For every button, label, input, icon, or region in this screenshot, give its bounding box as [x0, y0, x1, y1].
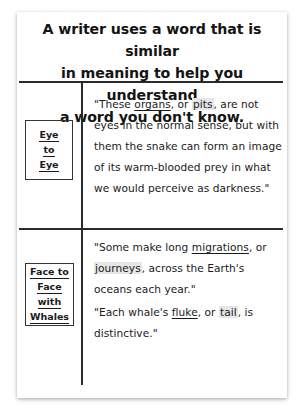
source-title-line: Face to	[30, 266, 69, 279]
row-divider	[19, 228, 283, 230]
unknown-word: migrations	[192, 241, 249, 253]
source-title-line: Eye	[39, 159, 58, 172]
source-title-box-eye-to-eye: Eye to Eye	[25, 120, 73, 180]
unknown-word: organs	[134, 98, 170, 110]
quote-organs-pits: "These organs, or pits, are not eyes in …	[94, 94, 282, 199]
source-title-line: Eye	[39, 129, 58, 142]
synonym-highlight: pits	[192, 98, 214, 110]
quote-migrations-journeys: "Some make long migrations, or journeys,…	[94, 237, 282, 300]
quote-text: , or	[171, 98, 192, 110]
quote-text: , or	[249, 241, 267, 253]
synonym-highlight: journeys	[94, 262, 142, 274]
synonym-highlight: tail	[219, 306, 238, 318]
anchor-chart-card: A writer uses a word that is similar in …	[17, 12, 287, 398]
quote-fluke-tail: "Each whale's fluke, or tail, is distinc…	[94, 302, 282, 344]
quote-text: , are not eyes in the normal sense, but …	[94, 98, 282, 194]
quote-text: , or	[198, 306, 219, 318]
quote-text: "These	[94, 98, 134, 110]
column-divider	[81, 82, 83, 385]
source-title-line: Face	[37, 281, 61, 294]
source-title-box-face-to-face-with-whales: Face to Face with Whales	[25, 263, 74, 326]
title-line: A writer uses a word that is similar	[17, 18, 287, 62]
header-divider	[19, 81, 283, 83]
source-title-line: with	[38, 296, 61, 309]
source-title-line: Whales	[30, 311, 69, 324]
quote-text: "Some make long	[94, 241, 192, 253]
unknown-word: fluke	[172, 306, 198, 318]
quote-text: "Each whale's	[94, 306, 172, 318]
source-title-line: to	[43, 144, 54, 157]
